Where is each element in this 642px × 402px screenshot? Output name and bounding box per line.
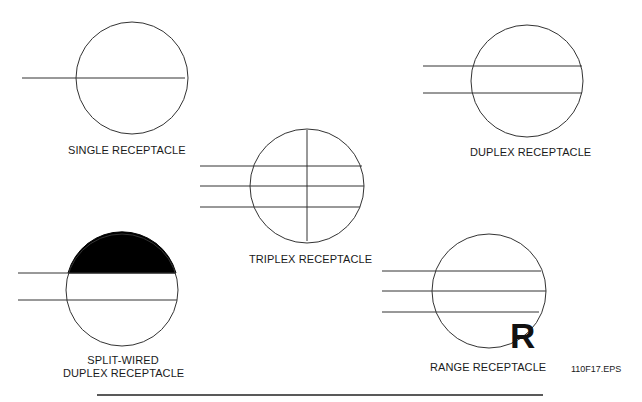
split-wired-duplex-receptacle-symbol — [18, 232, 178, 346]
split-wired-label-line1: SPLIT-WIRED — [83, 354, 163, 367]
duplex-receptacle-symbol — [423, 25, 583, 137]
receptacle-symbols-diagram — [0, 0, 642, 402]
triplex-receptacle-label: TRIPLEX RECEPTACLE — [249, 253, 372, 266]
single-receptacle-symbol — [22, 22, 188, 134]
split-wired-label-line2: DUPLEX RECEPTACLE — [63, 367, 183, 380]
duplex-receptacle-label: DUPLEX RECEPTACLE — [470, 146, 591, 159]
range-receptacle-label: RANGE RECEPTACLE — [430, 361, 546, 374]
triplex-receptacle-symbol — [200, 129, 364, 243]
figure-id: 110F17.EPS — [571, 364, 621, 374]
range-marker-r: R — [510, 318, 535, 353]
single-receptacle-label: SINGLE RECEPTACLE — [68, 144, 186, 157]
